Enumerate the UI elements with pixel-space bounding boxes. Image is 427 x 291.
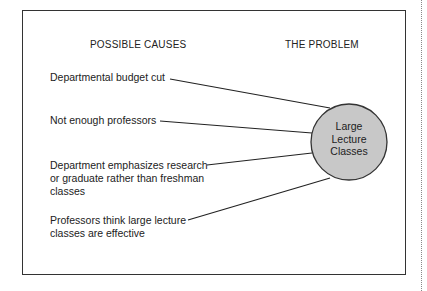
problem-line-1: Large — [311, 120, 387, 133]
problem-header: THE PROBLEM — [285, 38, 359, 51]
problem-line-2: Lecture — [311, 133, 387, 146]
problem-line-3: Classes — [311, 145, 387, 158]
cause-research-emphasis: Department emphasizes research or gradua… — [50, 159, 210, 198]
problem-label: Large Lecture Classes — [311, 120, 387, 158]
cause-budget-cut: Departmental budget cut — [50, 71, 165, 84]
causes-header: POSSIBLE CAUSES — [90, 38, 186, 51]
cause-not-enough-professors: Not enough professors — [50, 114, 156, 127]
cause-professors-belief: Professors think large lecture classes a… — [50, 214, 190, 240]
